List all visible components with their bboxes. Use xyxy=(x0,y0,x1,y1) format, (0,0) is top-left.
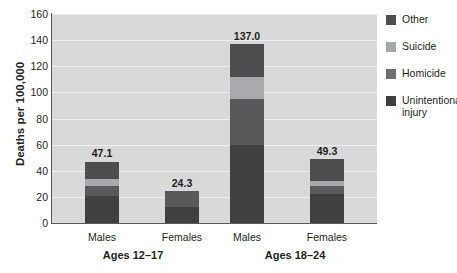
legend-label-suicide: Suicide xyxy=(402,41,457,53)
legend-label-other: Other xyxy=(402,14,457,26)
y-tick-160: 160 xyxy=(2,9,48,19)
bar-value-females-ages-12-17: 24.3 xyxy=(152,178,212,189)
bar-males-ages-18-24 xyxy=(230,44,264,223)
bar-segment-suicide xyxy=(310,181,344,186)
y-tick-80: 80 xyxy=(2,114,48,124)
legend-label-homicide: Homicide xyxy=(402,68,457,80)
y-tick-40: 40 xyxy=(2,166,48,176)
bar-males-ages-12-17 xyxy=(85,161,119,223)
legend-swatch-unintentional-injury-icon xyxy=(386,96,396,106)
bar-segment-suicide xyxy=(230,77,264,99)
gridline-120 xyxy=(52,66,377,67)
bar-value-males-ages-12-17: 47.1 xyxy=(72,148,132,159)
bar-segment-unintentional-injury xyxy=(230,145,264,223)
bar-value-females-ages-18-24: 49.3 xyxy=(297,146,357,157)
legend-item-homicide: Homicide xyxy=(386,68,457,80)
bar-segment-homicide xyxy=(230,99,264,145)
legend-item-other: Other xyxy=(386,14,457,26)
x-label-males-ages-18-24: Males xyxy=(207,231,287,243)
gridline-100 xyxy=(52,92,377,93)
bar-segment-homicide xyxy=(310,186,344,194)
gridline-160 xyxy=(52,14,377,15)
y-tick-100: 100 xyxy=(2,87,48,97)
stacked-bar-chart: Deaths per 100,000 160 140 120 100 80 60… xyxy=(0,0,457,273)
x-axis-line xyxy=(51,223,377,224)
group-label-ages-12-17: Ages 12–17 xyxy=(53,249,213,261)
bar-segment-other xyxy=(230,44,264,77)
legend-item-suicide: Suicide xyxy=(386,41,457,53)
gridline-80 xyxy=(52,119,377,120)
y-tick-60: 60 xyxy=(2,140,48,150)
legend-swatch-other-icon xyxy=(386,15,396,25)
y-tick-0: 0 xyxy=(2,218,48,228)
y-tick-20: 20 xyxy=(2,192,48,202)
bar-segment-other xyxy=(85,162,119,180)
x-label-females-ages-18-24: Females xyxy=(287,231,367,243)
group-label-ages-18-24: Ages 18–24 xyxy=(215,249,375,261)
y-axis-line xyxy=(51,13,52,224)
legend-swatch-homicide-icon xyxy=(386,69,396,79)
bar-segment-homicide xyxy=(85,186,119,196)
bar-segment-unintentional-injury xyxy=(165,207,199,223)
y-tick-120: 120 xyxy=(2,61,48,71)
bar-segment-unintentional-injury xyxy=(85,196,119,223)
bar-value-males-ages-18-24: 137.0 xyxy=(217,31,277,42)
plot-area xyxy=(52,14,377,223)
bar-segment-other xyxy=(310,159,344,181)
bar-segment-unintentional-injury xyxy=(310,194,344,223)
y-axis-tick-labels: 160 140 120 100 80 60 40 20 0 xyxy=(0,0,48,273)
bar-females-ages-12-17 xyxy=(165,191,199,223)
legend-label-unintentional-injury: Unintentional injury xyxy=(402,95,457,118)
legend-swatch-suicide-icon xyxy=(386,42,396,52)
legend-item-unintentional-injury: Unintentional injury xyxy=(386,95,457,118)
y-tick-140: 140 xyxy=(2,35,48,45)
x-label-males-ages-12-17: Males xyxy=(62,231,142,243)
gridline-140 xyxy=(52,40,377,41)
bar-segment-homicide xyxy=(165,191,199,206)
bar-segment-suicide xyxy=(85,179,119,186)
bar-females-ages-18-24 xyxy=(310,159,344,223)
legend: Other Suicide Homicide Unintentional inj… xyxy=(386,14,457,133)
